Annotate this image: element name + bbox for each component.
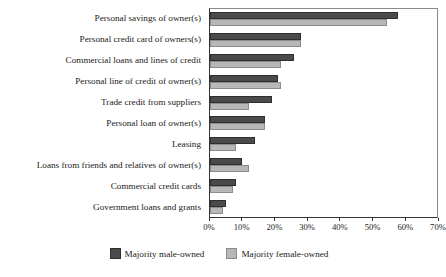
bar-group — [210, 92, 437, 113]
bar-female-owned — [210, 61, 281, 68]
category-axis-labels: Personal savings of owner(s)Personal cre… — [0, 8, 205, 218]
bar-female-owned — [210, 40, 301, 47]
bar-group — [210, 71, 437, 92]
x-axis-tick — [209, 218, 210, 221]
x-axis-tick-label: 30% — [299, 222, 315, 232]
category-label: Commercial credit cards — [0, 176, 205, 197]
x-axis-tick-label: 70% — [430, 222, 446, 232]
bar-male-owned — [210, 200, 226, 207]
x-axis-tick-label: 60% — [397, 222, 413, 232]
plot-area: Personal savings of owner(s)Personal cre… — [0, 0, 438, 240]
category-label: Government loans and grants — [0, 197, 205, 218]
plot-frame — [209, 8, 438, 218]
x-axis-tick — [307, 218, 308, 221]
bar-group — [210, 175, 437, 196]
bar-female-owned — [210, 186, 233, 193]
category-label: Leasing — [0, 134, 205, 155]
bar-female-owned — [210, 103, 249, 110]
bar-male-owned — [210, 158, 242, 165]
legend-item: Majority male-owned — [110, 248, 205, 259]
legend-swatch-icon — [226, 248, 237, 259]
bar-female-owned — [210, 144, 236, 151]
bar-male-owned — [210, 137, 255, 144]
bar-group — [210, 30, 437, 51]
bar-female-owned — [210, 123, 265, 130]
bar-male-owned — [210, 116, 265, 123]
bar-group — [210, 134, 437, 155]
bar-group — [210, 113, 437, 134]
bar-group — [210, 51, 437, 72]
x-axis-tick — [274, 218, 275, 221]
bar-group — [210, 196, 437, 217]
legend-item: Majority female-owned — [226, 248, 328, 259]
bar-group — [210, 9, 437, 30]
bar-male-owned — [210, 54, 294, 61]
category-label: Commercial loans and lines of credit — [0, 50, 205, 71]
bar-male-owned — [210, 75, 278, 82]
bar-female-owned — [210, 207, 223, 214]
chart-legend: Majority male-ownedMajority female-owned — [0, 248, 438, 259]
x-axis-tick-label: 50% — [365, 222, 381, 232]
category-label: Personal line of credit of owner(s) — [0, 71, 205, 92]
x-axis-tick — [405, 218, 406, 221]
x-axis-tick-label: 20% — [267, 222, 283, 232]
bar-female-owned — [210, 165, 249, 172]
bar-female-owned — [210, 19, 387, 26]
x-axis: 0%10%20%30%40%50%60%70% — [209, 218, 438, 240]
bar-male-owned — [210, 179, 236, 186]
bar-female-owned — [210, 82, 281, 89]
bar-male-owned — [210, 33, 301, 40]
x-axis-tick-label: 10% — [234, 222, 250, 232]
x-axis-tick — [241, 218, 242, 221]
x-axis-tick — [372, 218, 373, 221]
category-label: Loans from friends and relatives of owne… — [0, 155, 205, 176]
x-axis-tick — [339, 218, 340, 221]
bar-group — [210, 155, 437, 176]
bar-male-owned — [210, 12, 398, 19]
legend-label: Majority male-owned — [125, 249, 205, 259]
x-axis-tick-label: 40% — [332, 222, 348, 232]
legend-swatch-icon — [110, 248, 121, 259]
bar-male-owned — [210, 96, 272, 103]
category-label: Personal credit card of owners(s) — [0, 29, 205, 50]
category-label: Personal savings of owner(s) — [0, 8, 205, 29]
bar-groups — [210, 9, 437, 217]
legend-label: Majority female-owned — [241, 249, 328, 259]
category-label: Trade credit from suppliers — [0, 92, 205, 113]
category-label: Personal loan of owner(s) — [0, 113, 205, 134]
x-axis-tick-label: 0% — [203, 222, 214, 232]
x-axis-tick — [438, 218, 439, 221]
